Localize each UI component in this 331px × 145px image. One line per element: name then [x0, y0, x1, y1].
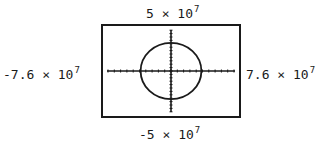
y-max-label: 5 × 107 — [146, 5, 199, 20]
x-min-label: -7.6 × 107 — [3, 66, 80, 81]
plot-window — [101, 24, 241, 118]
x-max-label: 7.6 × 107 — [246, 66, 315, 81]
plot-canvas — [101, 24, 241, 118]
y-min-label: -5 × 107 — [139, 126, 200, 141]
